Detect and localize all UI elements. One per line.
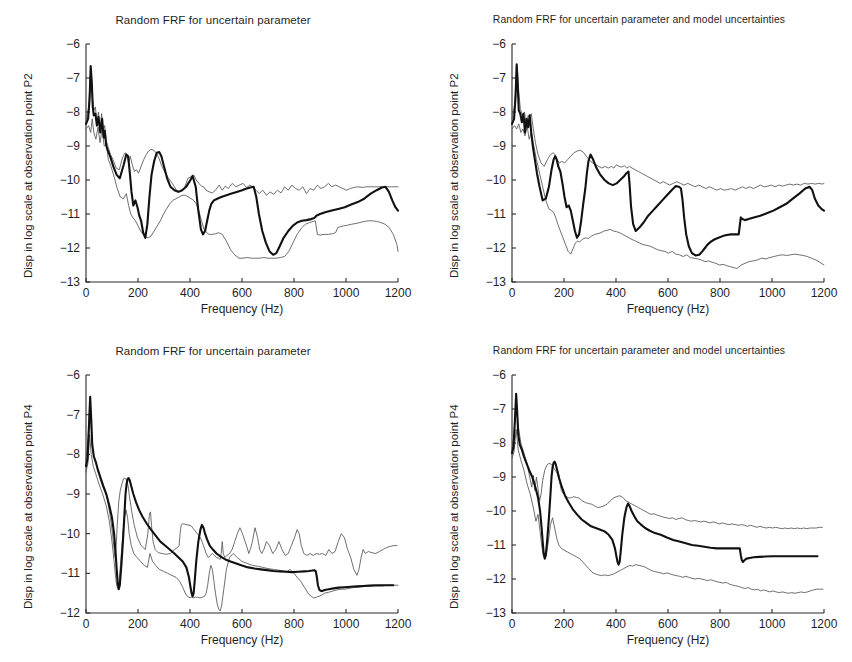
- x-tick-label: 600: [658, 286, 678, 300]
- x-tick-label: 800: [710, 617, 730, 631]
- x-tick-label: 1000: [759, 617, 786, 631]
- curve-upper-envelope: [512, 66, 824, 190]
- y-tick-label: −12: [486, 572, 507, 586]
- y-tick-label: −9: [492, 139, 506, 153]
- curve-mean-FRF: [512, 394, 818, 565]
- x-tick-label: 1000: [333, 286, 360, 300]
- x-tick-label: 400: [180, 286, 200, 300]
- plot-panel-bottom-left: Random FRF for uncertain parameterDisp i…: [0, 331, 426, 662]
- axis-lines: [512, 44, 824, 282]
- y-tick-label: −11: [61, 207, 81, 221]
- x-tick-label: 0: [83, 286, 90, 300]
- x-tick-label: 400: [180, 617, 200, 631]
- x-tick-label: 200: [554, 617, 574, 631]
- y-tick-label: −9: [492, 470, 506, 484]
- x-tick-label: 0: [509, 286, 516, 300]
- axis-lines: [512, 375, 824, 613]
- y-tick-label: −10: [60, 173, 81, 187]
- y-tick-label: −9: [66, 139, 80, 153]
- y-tick-label: −6: [492, 37, 506, 51]
- curve-mean-FRF: [86, 397, 393, 597]
- curve-lower-envelope: [512, 124, 824, 269]
- x-tick-label: 800: [710, 286, 730, 300]
- y-tick-label: −9: [66, 487, 80, 501]
- y-tick-label: −7: [66, 71, 80, 85]
- frf-figure: Random FRF for uncertain parameterDisp i…: [0, 0, 852, 662]
- x-tick-label: 1000: [759, 286, 786, 300]
- y-tick-label: −12: [486, 241, 507, 255]
- curve-upper-envelope: [512, 402, 822, 528]
- plot-area: −6−7−8−9−10−11−12−1302004006008001000120…: [426, 0, 852, 331]
- x-tick-label: 400: [606, 617, 626, 631]
- plot-panel-top-right: Random FRF for uncertain parameter and m…: [426, 0, 852, 331]
- y-tick-label: −7: [492, 71, 506, 85]
- y-tick-label: −13: [486, 606, 507, 620]
- x-tick-label: 600: [658, 617, 678, 631]
- y-tick-label: −11: [61, 566, 81, 580]
- x-tick-label: 1200: [385, 286, 412, 300]
- x-tick-label: 1200: [811, 617, 838, 631]
- y-tick-label: −10: [486, 504, 507, 518]
- x-tick-label: 1200: [811, 286, 838, 300]
- y-tick-label: −7: [492, 402, 506, 416]
- x-tick-label: 200: [128, 617, 148, 631]
- y-tick-label: −13: [60, 275, 81, 289]
- y-tick-label: −6: [66, 37, 80, 51]
- plot-area: −6−7−8−9−10−11−12−1302004006008001000120…: [0, 0, 426, 331]
- x-tick-label: 1200: [385, 617, 412, 631]
- curve-lower-envelope: [86, 435, 398, 612]
- x-tick-label: 800: [284, 286, 304, 300]
- y-tick-label: −12: [60, 241, 81, 255]
- x-tick-label: 800: [284, 617, 304, 631]
- plot-area: −6−7−8−9−10−11−12−1302004006008001000120…: [426, 331, 852, 662]
- y-tick-label: −8: [492, 436, 506, 450]
- y-tick-label: −6: [492, 368, 506, 382]
- plot-panel-top-left: Random FRF for uncertain parameterDisp i…: [0, 0, 426, 331]
- y-tick-label: −8: [66, 105, 80, 119]
- y-tick-label: −11: [487, 207, 507, 221]
- x-tick-label: 0: [83, 617, 90, 631]
- y-tick-label: −10: [486, 173, 507, 187]
- curve-mean-FRF: [86, 66, 398, 255]
- y-tick-label: −8: [492, 105, 506, 119]
- x-tick-label: 400: [606, 286, 626, 300]
- y-tick-label: −11: [487, 538, 507, 552]
- y-tick-label: −8: [66, 447, 80, 461]
- plot-area: −6−7−8−9−10−11−12020040060080010001200: [0, 331, 426, 662]
- plot-panel-bottom-right: Random FRF for uncertain parameter and m…: [426, 331, 852, 662]
- x-tick-label: 200: [128, 286, 148, 300]
- x-tick-label: 600: [232, 286, 252, 300]
- y-tick-label: −6: [66, 368, 80, 382]
- y-tick-label: −12: [60, 606, 81, 620]
- curve-lower-envelope: [512, 429, 823, 593]
- x-tick-label: 1000: [333, 617, 360, 631]
- y-tick-label: −7: [66, 408, 80, 422]
- y-tick-label: −10: [60, 527, 81, 541]
- y-tick-label: −13: [486, 275, 507, 289]
- axis-lines: [86, 44, 398, 282]
- curve-upper-envelope: [86, 71, 398, 195]
- x-tick-label: 200: [554, 286, 574, 300]
- x-tick-label: 600: [232, 617, 252, 631]
- x-tick-label: 0: [509, 617, 516, 631]
